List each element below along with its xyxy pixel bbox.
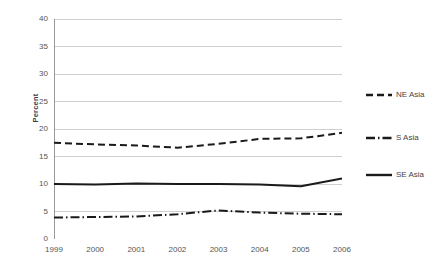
legend-item[interactable]: S Asia — [366, 131, 447, 145]
plot-svg — [54, 19, 342, 239]
legend-item[interactable]: NE Asia — [366, 88, 447, 102]
legend-label: SE Asia — [396, 171, 424, 179]
legend-label: S Asia — [396, 134, 419, 142]
line-chart: Percent 4035302520151050 199920002001200… — [0, 0, 447, 276]
y-tick-label: 35 — [26, 43, 48, 51]
legend-label: NE Asia — [396, 91, 424, 99]
x-tick-label: 2004 — [240, 246, 280, 254]
y-tick-label: 40 — [26, 15, 48, 23]
y-tick-label: 15 — [26, 153, 48, 161]
legend-swatch-dashed-icon — [366, 89, 392, 101]
y-tick-label: 20 — [26, 125, 48, 133]
x-tick-label: 2001 — [116, 246, 156, 254]
x-tick-label: 2006 — [322, 246, 362, 254]
series-line — [54, 179, 342, 187]
y-axis-tick-labels: 4035302520151050 — [22, 0, 48, 276]
x-axis-tick-labels: 19992000200120022003200420052006 — [54, 246, 342, 260]
y-tick-label: 0 — [26, 235, 48, 243]
y-tick-label: 25 — [26, 98, 48, 106]
plot-area — [54, 19, 342, 239]
y-tick-label: 5 — [26, 208, 48, 216]
x-tick-label: 1999 — [34, 246, 74, 254]
x-tick-label: 2002 — [157, 246, 197, 254]
x-tick-label: 2005 — [281, 246, 321, 254]
legend-item[interactable]: SE Asia — [366, 168, 447, 182]
series-line — [54, 133, 342, 148]
x-tick-label: 2000 — [75, 246, 115, 254]
legend-swatch-dash-dot-icon — [366, 132, 392, 144]
y-tick-label: 10 — [26, 180, 48, 188]
x-tick-label: 2003 — [199, 246, 239, 254]
legend-swatch-solid-icon — [366, 169, 392, 181]
y-tick-label: 30 — [26, 70, 48, 78]
chart-legend: NE AsiaS AsiaSE Asia — [366, 0, 447, 276]
